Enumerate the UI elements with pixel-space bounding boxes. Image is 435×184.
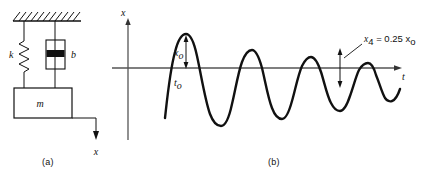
decay-annotation-label: x4 = 0.25 xo: [363, 33, 416, 47]
damped-response-curve: [165, 34, 400, 126]
damper-assembly: [46, 21, 65, 88]
spring-label: k: [9, 49, 14, 60]
displacement-label: x: [93, 146, 99, 157]
figure-container: k b m x: [0, 0, 435, 184]
caption-b: (b): [268, 157, 280, 167]
spring-coil-icon: [19, 38, 29, 88]
y-axis: [125, 18, 130, 140]
dashpot-piston-icon: [47, 50, 65, 57]
annotation-leader-line: [344, 44, 362, 58]
x-axis-label: t: [402, 71, 405, 82]
mass-label: m: [36, 98, 43, 109]
initial-amplitude-indicator: [184, 35, 189, 69]
initial-time-label: to: [174, 77, 182, 91]
y-axis-label: x: [120, 7, 126, 18]
caption-a: (a): [42, 157, 54, 167]
fixed-support-ceiling: [13, 12, 81, 21]
spring-assembly: [19, 21, 29, 88]
displacement-arrow-icon: [72, 118, 99, 140]
damper-label: b: [71, 49, 76, 60]
hatch-icon: [13, 12, 80, 21]
